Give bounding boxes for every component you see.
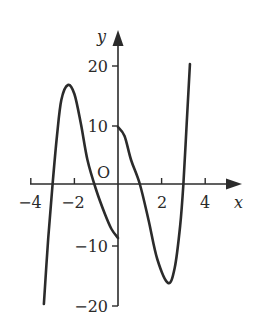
curve-right-branch — [118, 64, 190, 283]
x-tick-label: 2 — [157, 193, 167, 212]
x-axis-arrow-icon — [226, 179, 242, 190]
y-tick-label: −10 — [74, 237, 108, 256]
chart-canvas: −4 −2 2 4 20 10 −10 −20 x y O — [0, 0, 262, 331]
y-tick-label: −20 — [74, 297, 108, 316]
y-axis-arrow-icon — [113, 30, 124, 46]
origin-label: O — [97, 163, 110, 182]
x-axis-label: x — [234, 193, 243, 212]
y-axis-label: y — [96, 27, 107, 46]
y-tick-label: 10 — [88, 117, 108, 136]
y-ticks — [112, 66, 118, 306]
x-tick-label: −2 — [61, 193, 85, 212]
x-tick-label: 4 — [200, 193, 210, 212]
y-tick-label: 20 — [88, 57, 108, 76]
x-tick-label: −4 — [18, 193, 42, 212]
axes — [30, 42, 232, 306]
